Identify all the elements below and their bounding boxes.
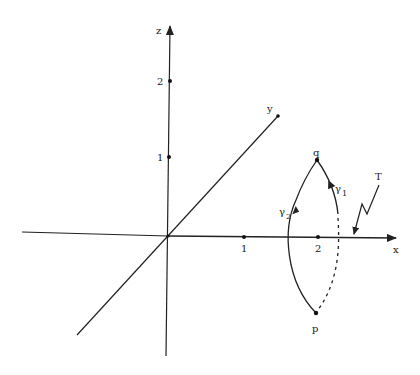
curve-gamma1: γ 1 <box>317 160 347 310</box>
y-axis-end <box>276 114 280 118</box>
z-axis-label: z <box>156 25 161 36</box>
gamma1-label: γ <box>335 183 341 194</box>
gamma2-label: γ <box>279 206 285 217</box>
annotation-T: T <box>354 171 382 234</box>
point-p-label: p <box>312 323 318 334</box>
y-axis-label: y <box>266 103 273 114</box>
x-axis-label: x <box>393 244 399 255</box>
point-p: p <box>312 311 318 334</box>
gamma1-arrow-icon <box>325 179 336 190</box>
x-tick-label-1: 1 <box>241 243 247 254</box>
diagram-canvas: 1 2 x 2 1 z y γ 2 γ 1 q p <box>0 0 420 375</box>
gamma1-subscript: 1 <box>342 189 347 198</box>
x-tick-1 <box>242 235 246 239</box>
x-tick-2 <box>316 235 320 239</box>
gamma2-subscript: 2 <box>286 212 291 221</box>
point-q: q <box>313 147 320 162</box>
y-axis: y <box>77 103 280 335</box>
z-axis: 2 1 z <box>156 25 172 356</box>
annotation-T-label: T <box>375 171 382 182</box>
z-tick-label-2: 2 <box>157 76 163 87</box>
origin-point <box>166 234 169 237</box>
z-tick-1 <box>167 155 171 159</box>
z-tick-2 <box>168 79 172 83</box>
z-tick-label-1: 1 <box>157 152 163 163</box>
x-tick-label-2: 2 <box>315 243 321 254</box>
x-axis: 1 2 x <box>22 232 399 255</box>
point-q-label: q <box>313 147 320 158</box>
